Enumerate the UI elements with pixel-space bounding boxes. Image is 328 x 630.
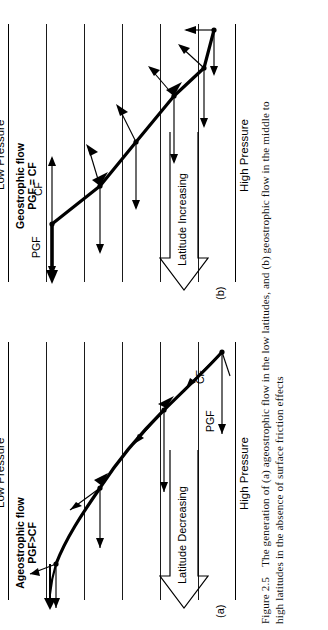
pgf-vector (218, 352, 226, 434)
pgf-vector (200, 68, 208, 128)
cf-vector (70, 488, 100, 510)
panel-a: (a) Low Pressure High Pressure (8, 334, 244, 618)
panel-a-cf-label: CF (194, 370, 206, 384)
cf-vector (134, 410, 164, 444)
panel-a-latitude-label: Latitude Decreasing (176, 486, 188, 584)
pgf-vector (96, 186, 104, 254)
cf-vector (116, 104, 136, 142)
cf-vector (184, 26, 214, 34)
geostrophic-flow-line1: Geostrophic flow (14, 134, 26, 238)
caption-line-1: Figure 2.5The generation of (a) ageostro… (258, 4, 272, 624)
cf-vector (178, 44, 204, 68)
cf-vector (148, 66, 174, 96)
figure-number: Figure 2.5 (259, 577, 271, 624)
panel-b-cf-label: CF (32, 182, 44, 196)
caption-line-2: high latitudes in the absence of surface… (272, 4, 286, 624)
panel-a-pgf-label: PGF (204, 410, 216, 432)
pgf-vector (96, 488, 104, 548)
pgf-vector (132, 142, 140, 210)
panel-a-latitude-arrow (158, 450, 222, 610)
pgf-vector (48, 224, 56, 276)
figure-caption: Figure 2.5The generation of (a) ageostro… (258, 4, 286, 624)
panel-b-low-pressure-label: Low Pressure (0, 120, 6, 190)
trajectory-segment (56, 488, 100, 564)
panel-a-high-pressure-label: High Pressure (238, 437, 250, 510)
rotated-figure-stage: (a) Low Pressure High Pressure (0, 0, 328, 630)
panel-b-high-pressure-label: High Pressure (238, 119, 250, 192)
panel-a-low-pressure-label: Low Pressure (0, 438, 6, 508)
panel-b-pgf-label: PGF (30, 236, 42, 258)
ageostrophic-flow-line1: Ageostrophic flow (14, 488, 26, 598)
trajectory-segment (100, 142, 136, 186)
trajectory-segment (52, 186, 100, 224)
figure-root: (a) Low Pressure High Pressure (0, 0, 328, 630)
panel-b-latitude-arrow (158, 132, 222, 292)
panel-a-ageostrophic-flow-label: Ageostrophic flow PGF>CF (14, 488, 38, 598)
caption-text-line1: The generation of (a) ageostrophic flow … (259, 101, 271, 567)
trajectory-segment (174, 68, 204, 96)
ageostrophic-flow-line2: PGF>CF (26, 488, 38, 598)
cf-vector (48, 156, 56, 224)
panel-b-latitude-label: Latitude Increasing (176, 173, 188, 266)
trajectory-segment (204, 30, 214, 68)
cf-leader-line (222, 352, 230, 376)
panel-b: (b) Low Pressure High Pressure (8, 16, 244, 300)
